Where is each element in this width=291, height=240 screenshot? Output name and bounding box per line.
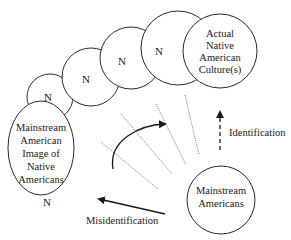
curved-arrow	[112, 124, 165, 169]
node-text-line: Native	[27, 161, 55, 172]
node-text-line: Culture(s)	[199, 64, 242, 76]
chain-node-label: N	[82, 73, 90, 85]
node-text-line: Native	[206, 40, 234, 51]
node-text-line: Americans	[18, 174, 63, 185]
identification-label: Identification	[229, 127, 286, 138]
mainstream-image-node: Mainstream American Image of Native Amer…	[8, 101, 74, 208]
diagram-canvas: N N N N Actual Native American Culture(s…	[0, 0, 291, 240]
below-n-label: N	[43, 196, 51, 208]
chain-node-label: N	[155, 45, 163, 57]
node-text-line: Image of	[22, 148, 60, 159]
mainstream-americans-node: Mainstream Americans	[187, 166, 255, 234]
node-text-line: American	[199, 52, 241, 63]
misidentification-label: Misidentification	[86, 215, 159, 226]
dotted-lines	[101, 95, 199, 189]
node-text-line: Mainstream	[16, 122, 66, 133]
node-text-line: Americans	[198, 198, 243, 209]
node-text-line: Mainstream	[196, 185, 246, 196]
misidentification-arrow	[99, 199, 165, 214]
chain-node-label: N	[118, 55, 126, 67]
node-text-line: Actual	[206, 28, 234, 39]
actual-native-american-culture-node: Actual Native American Culture(s)	[183, 14, 257, 88]
node-text-line: American	[20, 135, 62, 146]
